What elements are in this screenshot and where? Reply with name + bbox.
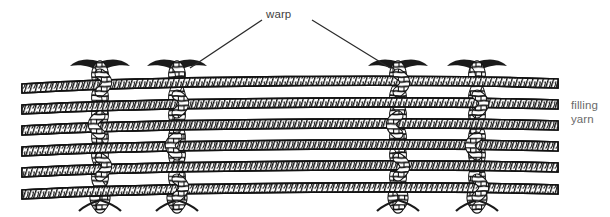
filling-yarn-label: fillingyarn [571,98,598,126]
warp-label: warp [266,7,291,21]
woven-fabric-diagram: warp fillingyarn [0,0,610,217]
filling-yarn-label-line1: filling [571,99,598,111]
weave-illustration [0,0,610,217]
filling-yarn-label-line2: yarn [571,112,598,126]
